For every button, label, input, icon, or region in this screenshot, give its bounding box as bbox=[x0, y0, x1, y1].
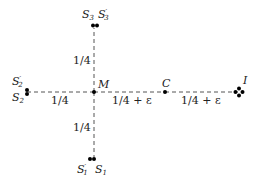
label-s3-prime: S′3 bbox=[98, 8, 109, 22]
label-i: I bbox=[242, 74, 248, 87]
weight-c-i: 1/4 + ε bbox=[181, 94, 221, 107]
weight-m-top: 1/4 bbox=[73, 54, 91, 67]
weight-m-left: 1/4 bbox=[51, 94, 69, 107]
label-s1-prime: S′1 bbox=[77, 163, 88, 177]
point-c bbox=[163, 90, 167, 94]
weight-m-bottom: 1/4 bbox=[73, 121, 91, 134]
label-c: C bbox=[162, 77, 171, 90]
label-s2-prime: S′2 bbox=[12, 75, 23, 89]
label-m: M bbox=[97, 78, 110, 91]
point-cluster-i bbox=[234, 87, 245, 98]
weight-m-c: 1/4 + ε bbox=[112, 94, 152, 107]
label-s2: S2 bbox=[12, 91, 25, 105]
point-pair-s3 bbox=[91, 24, 99, 28]
star-graph-diagram: M C I S3 S′3 S′2 S2 S′1 S1 1/4 1/4 1/4 1… bbox=[0, 0, 262, 182]
point-pair-s1 bbox=[88, 157, 96, 161]
label-s1: S1 bbox=[95, 163, 107, 177]
point-m bbox=[92, 90, 96, 94]
label-s3: S3 bbox=[82, 8, 95, 22]
